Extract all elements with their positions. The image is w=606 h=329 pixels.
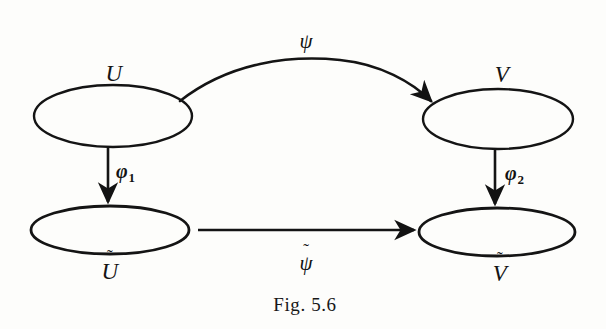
arrow-label-phi2: φ2 xyxy=(505,163,523,183)
figure-caption: Fig. 5.6 xyxy=(273,295,336,314)
node-ellipse-V xyxy=(423,89,573,149)
arrow-label-phi1: φ1 xyxy=(116,161,134,181)
tilde-accent-psi: ˜ xyxy=(303,241,309,258)
tilde-accent-V: ˜ xyxy=(497,249,503,266)
arrow-label-phi1-subscript: 1 xyxy=(129,170,136,185)
node-ellipse-U xyxy=(34,85,192,147)
figure-canvas: U V ˜ U ˜ V ψ φ1 φ2 ˜ ψ Fig. 5.6 xyxy=(0,0,606,329)
node-label-V-tilde: ˜ V xyxy=(493,262,508,285)
node-label-V: V xyxy=(495,63,510,86)
arrow-label-psi: ψ xyxy=(299,31,312,52)
arrow-label-psi-tilde: ˜ ψ xyxy=(299,253,312,274)
node-label-U-tilde: ˜ U xyxy=(101,260,118,283)
arrow-label-phi2-base: φ xyxy=(505,162,517,184)
arrow-label-phi1-base: φ xyxy=(116,160,128,182)
arrow-label-phi2-subscript: 2 xyxy=(518,172,525,187)
tilde-accent-U: ˜ xyxy=(107,247,113,264)
arrow-psi xyxy=(180,59,431,101)
node-label-U: U xyxy=(105,62,122,85)
